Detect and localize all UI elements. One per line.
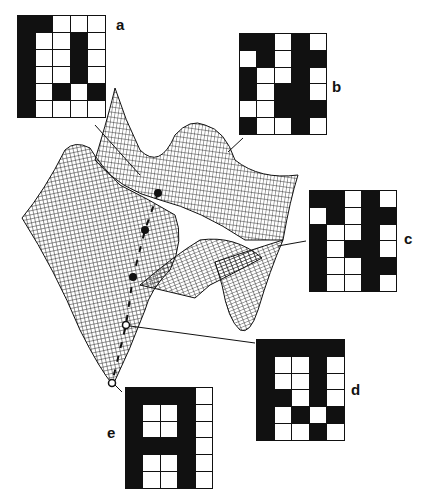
grid-cell: [275, 68, 291, 84]
grid-cell: [161, 405, 177, 421]
grid-cell: [88, 67, 105, 83]
grid-cell: [53, 101, 70, 117]
grid-cell: [292, 84, 308, 100]
grid-cell: [310, 275, 326, 291]
grid-cell: [143, 388, 159, 404]
grid-cell: [292, 374, 309, 390]
grid-cell: [196, 388, 212, 404]
grid-cell: [327, 424, 344, 440]
grid-cell: [292, 51, 308, 67]
grid-cell: [345, 191, 361, 207]
connector-line-b: [228, 138, 243, 152]
grid-cell: [240, 34, 256, 50]
grid-cell: [380, 275, 396, 291]
grid-cell: [240, 101, 256, 117]
grid-cell: [36, 101, 53, 117]
grid-cell: [196, 422, 212, 438]
grid-cell: [257, 118, 273, 134]
grid-cell: [18, 33, 35, 49]
grid-cell: [257, 390, 274, 406]
grid-cell: [327, 241, 343, 257]
grid-cell: [161, 455, 177, 471]
connector-line-c: [278, 241, 306, 246]
grid-cell: [178, 422, 194, 438]
grid-cell: [18, 84, 35, 100]
grid-cell: [196, 455, 212, 471]
grid-cell: [196, 405, 212, 421]
grid-cell: [327, 258, 343, 274]
grid-cell: [310, 208, 326, 224]
grid-cell: [257, 51, 273, 67]
grid-cell: [345, 275, 361, 291]
grid-cell: [36, 67, 53, 83]
trajectory-open-point: [109, 380, 116, 387]
grid-cell: [275, 374, 292, 390]
trajectory-point: [129, 273, 137, 281]
grid-cell: [143, 438, 159, 454]
grid-cell: [161, 438, 177, 454]
grid-cell: [310, 191, 326, 207]
grid-cell: [240, 84, 256, 100]
grid-cell: [310, 241, 326, 257]
grid-cell: [345, 241, 361, 257]
grid-cell: [143, 422, 159, 438]
grid-cell: [53, 50, 70, 66]
grid-cell: [275, 390, 292, 406]
grid-cell: [257, 34, 273, 50]
grid-cell: [53, 67, 70, 83]
grid-cell: [178, 388, 194, 404]
grid-cell: [327, 407, 344, 423]
grid-cell: [18, 67, 35, 83]
grid-cell: [126, 405, 142, 421]
grid-cell: [310, 84, 326, 100]
grid-cell: [161, 422, 177, 438]
grid-cell: [257, 424, 274, 440]
grid-cell: [240, 51, 256, 67]
grid-cell: [88, 33, 105, 49]
grid-cell: [362, 275, 378, 291]
grid-cell: [178, 472, 194, 488]
grid-cell: [143, 455, 159, 471]
grid-cell: [71, 50, 88, 66]
connector-line-d: [130, 326, 255, 343]
grid-cell: [310, 258, 326, 274]
grid-cell: [275, 424, 292, 440]
grid-cell: [196, 438, 212, 454]
grid-cell: [126, 438, 142, 454]
grid-cell: [310, 424, 327, 440]
grid-cell: [310, 390, 327, 406]
grid-cell: [88, 84, 105, 100]
pattern-label-e: e: [107, 424, 115, 441]
grid-cell: [292, 68, 308, 84]
grid-cell: [275, 51, 291, 67]
grid-cell: [362, 241, 378, 257]
grid-cell: [240, 118, 256, 134]
grid-cell: [71, 33, 88, 49]
grid-cell: [380, 191, 396, 207]
grid-cell: [126, 472, 142, 488]
grid-cell: [275, 340, 292, 356]
grid-cell: [275, 34, 291, 50]
grid-cell: [310, 340, 327, 356]
grid-cell: [310, 68, 326, 84]
grid-cell: [345, 225, 361, 241]
grid-cell: [275, 357, 292, 373]
grid-cell: [36, 33, 53, 49]
grid-cell: [257, 68, 273, 84]
grid-cell: [292, 424, 309, 440]
pattern-label-b: b: [332, 78, 341, 95]
grid-cell: [275, 101, 291, 117]
grid-cell: [126, 388, 142, 404]
pattern-grid-b: [239, 33, 327, 135]
grid-cell: [310, 101, 326, 117]
grid-cell: [178, 438, 194, 454]
pattern-grid-a: [17, 15, 106, 118]
grid-cell: [53, 16, 70, 32]
pattern-grid-d: [256, 339, 345, 441]
grid-cell: [71, 101, 88, 117]
grid-cell: [310, 34, 326, 50]
grid-cell: [36, 84, 53, 100]
grid-cell: [310, 118, 326, 134]
grid-cell: [327, 191, 343, 207]
energy-landscape-figure: abcde: [0, 0, 428, 499]
